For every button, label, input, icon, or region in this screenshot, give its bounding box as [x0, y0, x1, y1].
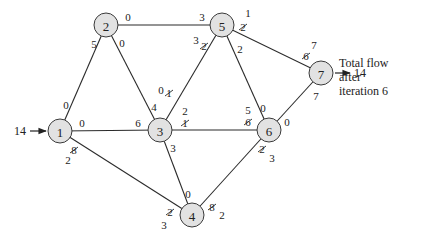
flow-label-3-6: 5: [245, 104, 251, 116]
flow-labels-layer: 0506822304030132215630822320127607: [63, 7, 319, 231]
flow-label-2-3: 4: [151, 101, 157, 113]
edges-layer: [60, 25, 321, 215]
edge-2-3: [106, 25, 160, 130]
edge-3-5: [160, 25, 222, 130]
edge-4-6: [192, 130, 269, 215]
flow-label-3-5: 3: [193, 34, 199, 46]
flow-label-5-7: 1: [245, 7, 251, 19]
node-6: 6: [257, 118, 281, 142]
flow-label-3-6: 2: [182, 105, 188, 117]
node-3: 3: [148, 118, 172, 142]
flow-label-5-6: 2: [237, 43, 243, 55]
iteration-caption: Total flow after iteration 6: [339, 56, 434, 98]
flow-label-1-2: 0: [63, 99, 69, 111]
node-label: 7: [318, 67, 325, 82]
caption-line-2: after: [339, 70, 434, 84]
node-label: 4: [189, 209, 196, 224]
network-flow-diagram: 0506822304030132215630822320127607 12345…: [0, 0, 439, 241]
flow-label-1-3: 0: [79, 117, 85, 129]
flow-label-4-6: 2: [219, 209, 225, 221]
source-inflow: 14: [14, 124, 46, 138]
flow-label-4-6: 3: [269, 152, 275, 164]
node-5: 5: [210, 13, 234, 37]
node-4: 4: [180, 203, 204, 227]
node-1: 1: [48, 119, 72, 143]
node-label: 3: [157, 124, 164, 139]
node-label: 2: [103, 19, 110, 34]
flow-label-3-4: 0: [185, 188, 191, 200]
flow-label-3-5: 0: [158, 84, 164, 96]
caption-line-1: Total flow: [339, 56, 434, 70]
flow-label-1-3: 6: [135, 117, 141, 129]
node-2: 2: [94, 13, 118, 37]
flow-label-2-5: 0: [125, 11, 131, 23]
node-7: 7: [309, 61, 333, 85]
flow-label-1-4: 3: [161, 219, 167, 231]
node-label: 6: [266, 124, 273, 139]
flow-label-1-2: 5: [91, 38, 97, 50]
flow-label-3-4: 3: [170, 142, 176, 154]
flow-label-1-4: 2: [65, 154, 71, 166]
node-label: 5: [219, 19, 226, 34]
edge-1-3: [60, 130, 160, 131]
source-flow-value: 14: [14, 124, 26, 138]
edge-1-2: [60, 25, 106, 131]
node-label: 1: [57, 125, 64, 140]
flow-label-6-7: 0: [284, 116, 290, 128]
caption-line-3: iteration 6: [339, 84, 434, 98]
flow-label-2-5: 3: [199, 11, 205, 23]
flow-label-5-7: 7: [311, 39, 317, 51]
edge-3-4: [160, 130, 192, 215]
flow-label-6-7: 7: [313, 90, 319, 102]
flow-label-5-6: 0: [260, 102, 266, 114]
flow-label-2-3: 0: [119, 37, 125, 49]
